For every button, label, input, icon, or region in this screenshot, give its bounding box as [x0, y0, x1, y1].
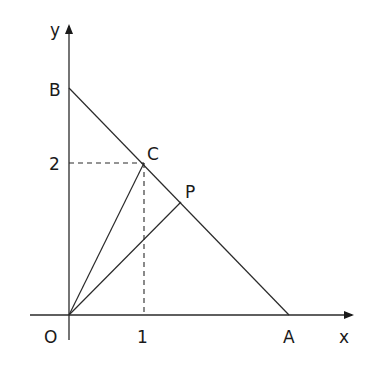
origin-label: O [44, 327, 57, 347]
y-axis-label: y [50, 20, 60, 40]
coordinate-diagram: y x O 1 2 B C P A [0, 0, 376, 368]
x-tick-label: 1 [137, 327, 148, 347]
point-A-label: A [283, 327, 295, 347]
point-C-label: C [147, 144, 159, 164]
point-P-label: P [185, 182, 195, 202]
x-axis-label: x [339, 327, 349, 347]
segment-OC [69, 163, 144, 315]
y-tick-label: 2 [49, 154, 60, 174]
segment-OP [69, 202, 181, 315]
point-B-label: B [49, 80, 61, 100]
